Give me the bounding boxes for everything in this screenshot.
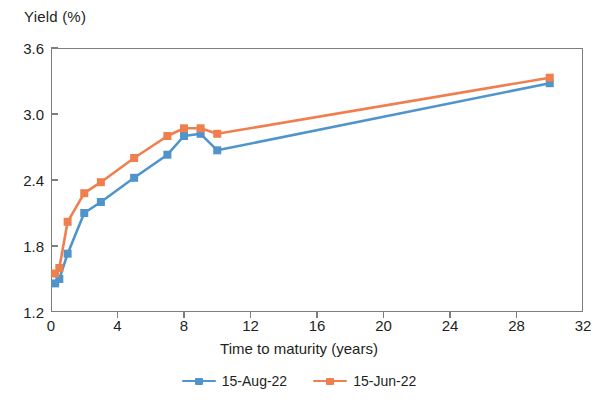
- x-tick-mark: [316, 312, 318, 318]
- chart-legend: 15-Aug-2215-Jun-22: [0, 373, 598, 389]
- y-axis-title: Yield (%): [24, 8, 86, 25]
- x-tick-label: 28: [497, 317, 537, 334]
- x-tick-mark: [449, 312, 451, 318]
- x-tick-label: 16: [297, 317, 337, 334]
- y-tick-label: 3.0: [2, 106, 44, 123]
- legend-swatch-icon: [182, 375, 216, 387]
- x-tick-mark: [117, 312, 119, 318]
- y-tick-label: 2.4: [2, 172, 44, 189]
- x-axis-title: Time to maturity (years): [0, 340, 598, 357]
- legend-item[interactable]: 15-Jun-22: [313, 373, 416, 389]
- legend-label: 15-Aug-22: [222, 373, 287, 389]
- legend-item[interactable]: 15-Aug-22: [182, 373, 287, 389]
- y-tick-mark: [51, 179, 58, 181]
- x-tick-mark: [383, 312, 385, 318]
- x-tick-mark: [250, 312, 252, 318]
- x-tick-mark: [516, 312, 518, 318]
- y-tick-mark: [51, 47, 58, 49]
- plot-area: [51, 48, 583, 312]
- y-tick-mark: [51, 113, 58, 115]
- y-tick-mark: [51, 245, 58, 247]
- x-tick-label: 24: [430, 317, 470, 334]
- legend-label: 15-Jun-22: [353, 373, 416, 389]
- x-tick-label: 20: [364, 317, 404, 334]
- x-tick-label: 12: [231, 317, 271, 334]
- x-tick-label: 4: [98, 317, 138, 334]
- x-tick-label: 0: [31, 317, 71, 334]
- yield-curve-chart: Yield (%) 1.21.82.43.03.6 04812162024283…: [0, 0, 598, 402]
- y-tick-label: 3.6: [2, 40, 44, 57]
- legend-swatch-icon: [313, 375, 347, 387]
- x-tick-mark: [183, 312, 185, 318]
- x-tick-label: 8: [164, 317, 204, 334]
- x-tick-label: 32: [563, 317, 598, 334]
- y-tick-label: 1.8: [2, 238, 44, 255]
